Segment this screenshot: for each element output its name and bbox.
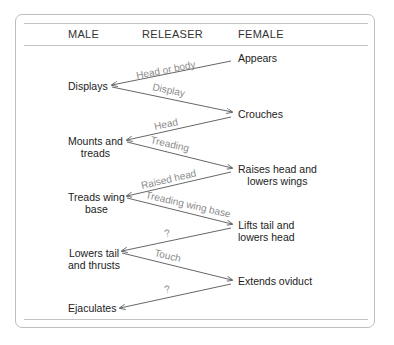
releaser-arrows: Head or body Display Head Treading Raise… [0, 0, 394, 345]
arrow-unknown-2 [120, 284, 231, 308]
releaser-label: Treading [150, 134, 191, 154]
releaser-label: ? [163, 227, 171, 239]
releaser-label: Treading wing base [145, 189, 233, 219]
releaser-label: Raised head [140, 168, 197, 191]
arrow-unknown-1 [122, 228, 231, 251]
releaser-label: ? [163, 283, 171, 295]
releaser-label: Head or body [135, 59, 196, 81]
arrow-head [127, 117, 231, 140]
